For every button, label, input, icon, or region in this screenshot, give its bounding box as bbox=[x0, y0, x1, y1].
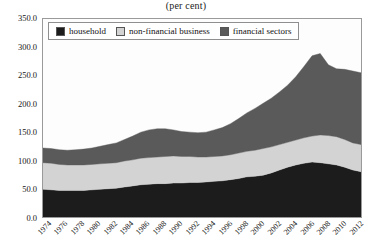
x-axis-tick: 2002 bbox=[265, 219, 283, 237]
x-axis-tick: 1980 bbox=[85, 219, 103, 237]
legend-item-household[interactable]: household bbox=[56, 26, 106, 36]
x-axis-tick: 2004 bbox=[282, 219, 300, 237]
x-axis-tick: 1984 bbox=[118, 219, 136, 237]
stacked-area-svg bbox=[43, 19, 361, 217]
x-axis-tick: 2000 bbox=[249, 219, 267, 237]
x-axis-tick: 2006 bbox=[298, 219, 316, 237]
x-axis-tick: 2012 bbox=[347, 219, 365, 237]
x-axis-tick: 1978 bbox=[68, 219, 86, 237]
y-axis-tick: 250.0 bbox=[18, 71, 37, 80]
y-axis-tick: 100.0 bbox=[18, 156, 37, 165]
x-axis-tick: 2010 bbox=[331, 219, 349, 237]
legend-swatch-icon bbox=[220, 27, 229, 36]
chart-legend: householdnon-financial businessfinancial… bbox=[48, 22, 299, 40]
legend-label: financial sectors bbox=[233, 26, 292, 36]
y-axis-tick: 0.0 bbox=[26, 214, 37, 223]
chart-figure: (per cent) 0.050.0100.0150.0200.0250.030… bbox=[0, 0, 372, 252]
y-axis-tick: 350.0 bbox=[18, 14, 37, 23]
x-axis-tick: 1986 bbox=[134, 219, 152, 237]
x-axis-tick: 1990 bbox=[167, 219, 185, 237]
legend-swatch-icon bbox=[116, 27, 125, 36]
x-axis-tick: 1988 bbox=[151, 219, 169, 237]
y-axis-tick: 50.0 bbox=[22, 185, 37, 194]
x-axis-tick: 1982 bbox=[101, 219, 119, 237]
y-axis-tick: 150.0 bbox=[18, 128, 37, 137]
x-axis-tick: 1998 bbox=[233, 219, 251, 237]
chart-title: (per cent) bbox=[0, 0, 372, 12]
x-axis-tick: 1994 bbox=[200, 219, 218, 237]
legend-item-financial-sectors[interactable]: financial sectors bbox=[220, 26, 292, 36]
x-axis-tick: 1996 bbox=[216, 219, 234, 237]
x-axis-tick: 2008 bbox=[315, 219, 333, 237]
legend-label: non-financial business bbox=[129, 26, 210, 36]
x-axis-tick: 1974 bbox=[36, 219, 54, 237]
x-axis-tick: 1976 bbox=[52, 219, 70, 237]
legend-label: household bbox=[69, 26, 106, 36]
y-axis-tick: 200.0 bbox=[18, 99, 37, 108]
x-axis-tick: 1992 bbox=[183, 219, 201, 237]
legend-item-non-financial-business[interactable]: non-financial business bbox=[116, 26, 210, 36]
x-axis-labels: 1974197619781980198219841986198819901992… bbox=[42, 219, 362, 252]
legend-swatch-icon bbox=[56, 27, 65, 36]
plot-area bbox=[42, 18, 362, 218]
y-axis-tick: 300.0 bbox=[18, 42, 37, 51]
y-axis-labels: 0.050.0100.0150.0200.0250.0300.0350.0 bbox=[0, 18, 40, 218]
